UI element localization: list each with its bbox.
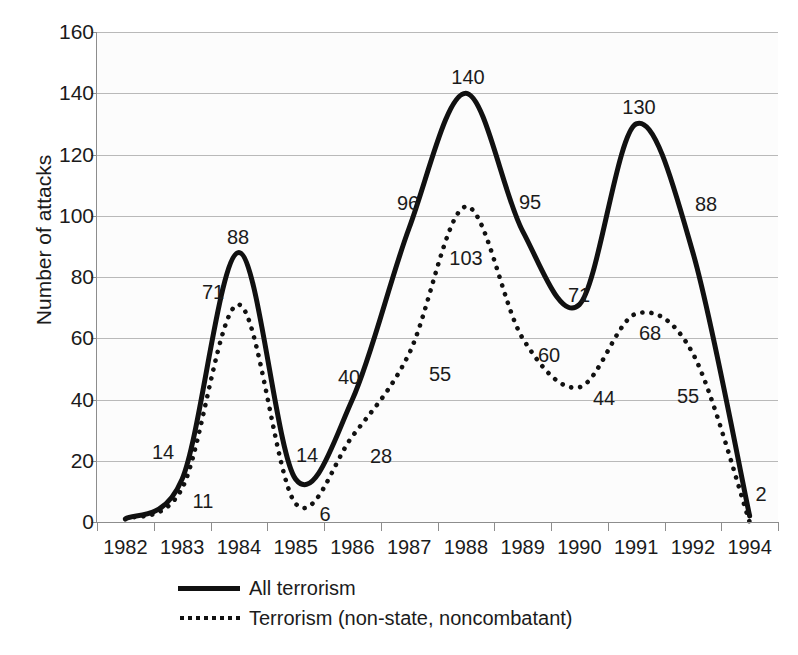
data-point-label: 95 [519, 192, 541, 212]
x-axis-tick [665, 523, 666, 531]
data-point-label: 88 [227, 227, 249, 247]
legend-label: Terrorism (non-state, noncombatant) [249, 608, 572, 628]
data-point-label: 44 [593, 388, 615, 408]
x-axis-tick-label: 1991 [614, 537, 659, 557]
y-axis-tick-label: 20 [14, 450, 94, 471]
data-point-label: 11 [193, 491, 214, 511]
data-point-label: 55 [429, 364, 451, 384]
data-point-label: 71 [568, 285, 590, 305]
legend-label: All terrorism [249, 578, 356, 598]
x-axis-tick-label: 1988 [444, 537, 489, 557]
x-axis-tick-label: 1992 [671, 537, 716, 557]
data-point-label: 103 [449, 248, 482, 268]
data-point-label: 68 [639, 323, 661, 343]
data-point-label: 88 [695, 194, 717, 214]
legend-item: All terrorism [178, 578, 798, 598]
x-axis-tick [721, 523, 722, 531]
y-axis-title: Number of attacks [32, 30, 56, 450]
x-axis-tick-label: 1989 [500, 537, 545, 557]
x-axis-tick [97, 523, 98, 531]
x-axis-tick-label: 1985 [273, 537, 318, 557]
data-point-label: 28 [370, 446, 392, 466]
data-point-label: 6 [319, 504, 330, 524]
data-point-label: 2 [755, 484, 766, 504]
chart-figure: 160140120100806040200 198219831984198519… [0, 0, 798, 655]
data-point-label: 14 [152, 442, 174, 462]
dotted-line-key [178, 611, 240, 625]
x-axis-tick-label: 1987 [387, 537, 432, 557]
data-point-label: 60 [538, 345, 560, 365]
x-axis-tick [381, 523, 382, 531]
x-axis-tick-label: 1986 [330, 537, 375, 557]
data-point-label: 40 [338, 367, 360, 387]
data-point-label: 55 [677, 386, 699, 406]
x-axis-tick-label: 1994 [727, 537, 772, 557]
x-axis-tick-label: 1982 [103, 537, 148, 557]
data-point-label: 14 [296, 445, 318, 465]
series-lines [97, 32, 778, 522]
x-axis-tick [551, 523, 552, 531]
x-axis-tick [494, 523, 495, 531]
x-axis-tick [154, 523, 155, 531]
data-point-label: 130 [622, 97, 655, 117]
plot-area [97, 32, 778, 522]
data-point-label: 96 [397, 193, 419, 213]
legend-item: Terrorism (non-state, noncombatant) [178, 608, 798, 628]
x-axis-tick-label: 1983 [160, 537, 205, 557]
chart-legend: All terrorismTerrorism (non-state, nonco… [0, 578, 798, 638]
solid-line-key [178, 581, 240, 595]
x-axis-tick [778, 523, 779, 531]
line-all-terrorism [125, 93, 749, 519]
x-axis-tick-label: 1984 [217, 537, 262, 557]
x-axis-tick [608, 523, 609, 531]
x-axis-tick-label: 1990 [557, 537, 602, 557]
data-point-label: 140 [451, 67, 484, 87]
x-axis-tick [211, 523, 212, 531]
y-axis-tick-label: 0 [14, 511, 94, 532]
data-point-label: 71 [202, 282, 224, 302]
x-axis-tick [267, 523, 268, 531]
x-axis-tick [438, 523, 439, 531]
